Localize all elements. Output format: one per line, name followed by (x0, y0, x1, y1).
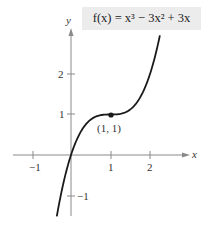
x-tick-label: 2 (147, 161, 153, 173)
point-label: (1, 1) (97, 122, 121, 135)
x-tick-label: −1 (29, 161, 41, 173)
function-label: f(x) = x³ − 3x² + 3x (82, 7, 201, 30)
function-label-text: f(x) = x³ − 3x² + 3x (93, 11, 190, 26)
y-tick-label: 2 (58, 68, 64, 80)
point-marker (108, 112, 113, 117)
y-axis-label: y (65, 14, 71, 26)
y-tick-label: 1 (59, 108, 65, 120)
y-tick-label: −1 (77, 190, 89, 202)
y-axis-arrow-icon (69, 28, 74, 36)
x-axis-arrow-icon (182, 153, 190, 158)
x-axis-label: x (191, 148, 197, 160)
y-axis (69, 28, 74, 216)
function-graph: −1 1 2 2 1 −1 x y (1, 1) (0, 0, 207, 234)
x-tick-label: 1 (108, 161, 114, 173)
x-axis (13, 153, 190, 158)
